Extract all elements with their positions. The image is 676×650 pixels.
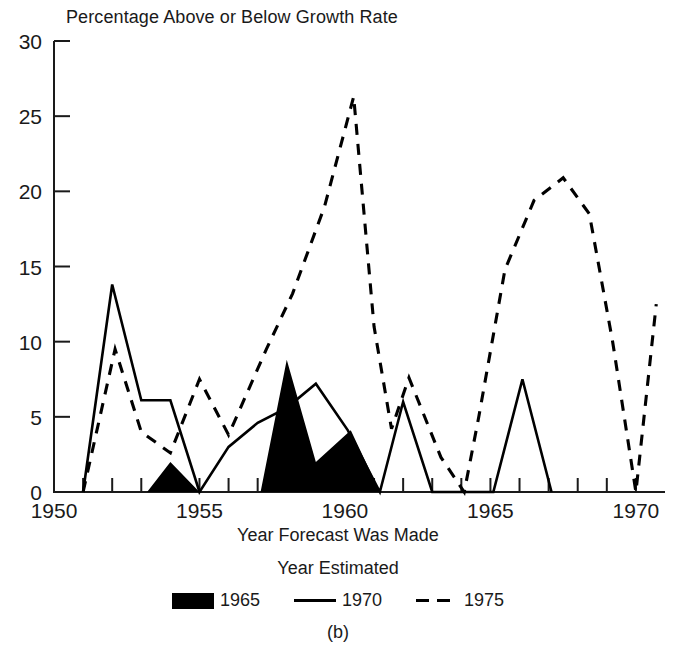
axis-lines: [54, 41, 665, 492]
y-tick-label: 25: [19, 105, 42, 128]
legend-item-1975: 1975: [416, 590, 504, 611]
chart-figure: Percentage Above or Below Growth Rate 05…: [0, 0, 676, 650]
x-tick-label: 1965: [467, 499, 514, 520]
legend-label-1970: 1970: [342, 590, 382, 611]
legend-item-1965: 1965: [172, 590, 260, 611]
plot-area: 051015202530 19501955196019651970: [0, 0, 676, 520]
x-tick-label: 1970: [613, 499, 660, 520]
legend-solid-line-icon: [294, 599, 336, 602]
legend-item-1970: 1970: [294, 590, 382, 611]
x-tick-label: 1950: [31, 499, 78, 520]
y-axis-tick-labels: 051015202530: [19, 30, 42, 504]
y-axis-ticks: [54, 116, 70, 417]
y-tick-label: 15: [19, 256, 42, 279]
legend-label-1965: 1965: [220, 590, 260, 611]
x-axis-tick-labels: 19501955196019651970: [31, 499, 660, 520]
x-tick-label: 1960: [322, 499, 369, 520]
legend-filled-swatch-icon: [172, 593, 214, 609]
legend-title: Year Estimated: [0, 558, 676, 579]
series-1975-line: [83, 97, 656, 492]
y-tick-label: 30: [19, 30, 42, 53]
y-tick-label: 20: [19, 180, 42, 203]
y-tick-label: 5: [30, 406, 42, 429]
panel-label: (b): [0, 622, 676, 643]
chart-legend: 1965 1970 1975: [0, 590, 676, 611]
legend-label-1975: 1975: [464, 590, 504, 611]
x-axis-label: Year Forecast Was Made: [0, 525, 676, 546]
legend-dashed-line-icon: [416, 599, 458, 602]
x-tick-label: 1955: [176, 499, 223, 520]
y-tick-label: 10: [19, 331, 42, 354]
